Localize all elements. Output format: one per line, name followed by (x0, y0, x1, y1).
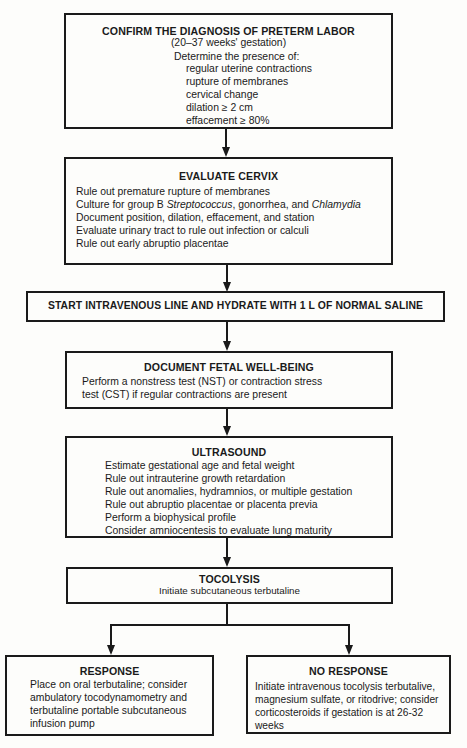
arrow-down-icon (107, 645, 115, 655)
no-response-line: magnesium sulfate, or ritodrive; conside… (255, 693, 449, 706)
cervix-item: Document position, dilation, effacement,… (76, 212, 391, 225)
no-response-line: corticosteroids if gestation is at 26-32 (255, 706, 449, 719)
iv-hydrate-box: START INTRAVENOUS LINE AND HYDRATE WITH … (26, 291, 445, 322)
connector-line (226, 538, 228, 558)
cervix-item: Evaluate urinary tract to rule out infec… (76, 225, 391, 238)
arrow-down-icon (222, 147, 230, 157)
tocolysis-title: TOCOLYSIS (68, 573, 391, 585)
confirm-item: regular uterine contractions (186, 63, 391, 76)
tocolysis-subtitle: Initiate subcutaneous terbutaline (68, 585, 391, 598)
ultrasound-box: ULTRASOUND Estimate gestational age and … (65, 436, 393, 538)
fetal-line: test (CST) if regular contractions are p… (82, 389, 391, 402)
arrow-down-icon (223, 341, 231, 351)
ultrasound-item: Rule out intrauterine growth retardation (105, 473, 391, 486)
fetal-line: Perform a nonstress test (NST) or contra… (82, 376, 391, 389)
arrow-down-icon (345, 645, 353, 655)
gestation-range: (20–37 weeks' gestation) (66, 37, 391, 50)
connector-line (348, 624, 350, 647)
cervix-item: Rule out premature rupture of membranes (76, 186, 391, 199)
response-line: terbutaline portable subcutaneous (30, 704, 212, 717)
confirm-diagnosis-title: CONFIRM THE DIAGNOSIS OF PRETERM LABOR (66, 25, 391, 37)
confirm-item: cervical change (186, 89, 391, 102)
cervix-item: Rule out early abruptio placentae (76, 238, 391, 251)
no-response-line: weeks (255, 719, 449, 732)
response-line: ambulatory tocodynamometry and (30, 691, 212, 704)
chlamydia-text: Chlamydia (312, 199, 361, 210)
branch-line (110, 624, 350, 626)
cervix-item-culture: Culture for group B Streptococcus, gonor… (76, 199, 391, 212)
streptococcus-text: Streptococcus (167, 199, 233, 210)
connector-line (226, 604, 228, 626)
confirm-diagnosis-box: CONFIRM THE DIAGNOSIS OF PRETERM LABOR (… (64, 13, 393, 129)
confirm-item: dilation ≥ 2 cm (186, 102, 391, 115)
ultrasound-item: Rule out anomalies, hydramnios, or multi… (105, 486, 391, 499)
confirm-item: rupture of membranes (186, 76, 391, 89)
ultrasound-title: ULTRASOUND (67, 446, 391, 458)
arrow-down-icon (223, 426, 231, 436)
connector-line (225, 129, 227, 149)
ultrasound-item: Consider amniocentesis to evaluate lung … (105, 525, 391, 538)
response-title: RESPONSE (7, 665, 212, 677)
evaluate-cervix-title: EVALUATE CERVIX (66, 170, 391, 182)
response-line: infusion pump (30, 717, 212, 730)
ultrasound-item: Rule out abruptio placentae or placenta … (105, 499, 391, 512)
ultrasound-item: Perform a biophysical profile (105, 512, 391, 525)
connector-line (226, 322, 228, 343)
ultrasound-item: Estimate gestational age and fetal weigh… (105, 460, 391, 473)
culture-mid-text: , gonorrhea, and (233, 199, 312, 210)
arrow-down-icon (223, 557, 231, 567)
fetal-wellbeing-title: DOCUMENT FETAL WELL-BEING (67, 361, 391, 373)
response-box: RESPONSE Place on oral terbutaline; cons… (5, 655, 214, 736)
no-response-title: NO RESPONSE (248, 665, 449, 677)
confirm-item: effacement ≥ 80% (186, 115, 391, 128)
response-line: Place on oral terbutaline; consider (30, 678, 212, 691)
culture-text: Culture for group B (76, 199, 167, 210)
iv-hydrate-title: START INTRAVENOUS LINE AND HYDRATE WITH … (28, 300, 443, 311)
fetal-wellbeing-box: DOCUMENT FETAL WELL-BEING Perform a nons… (65, 351, 393, 409)
no-response-line: Initiate intravenous tocolysis terbutali… (255, 680, 449, 693)
connector-line (110, 624, 112, 647)
no-response-box: NO RESPONSE Initiate intravenous tocolys… (246, 655, 451, 734)
evaluate-cervix-box: EVALUATE CERVIX Rule out premature ruptu… (64, 157, 393, 265)
tocolysis-box: TOCOLYSIS Initiate subcutaneous terbutal… (66, 567, 393, 604)
confirm-intro: Determine the presence of: (174, 51, 391, 64)
